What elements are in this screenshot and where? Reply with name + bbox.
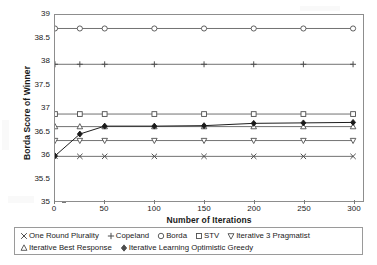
marker-circle-open (102, 26, 107, 31)
marker-diamond-filled (251, 120, 256, 126)
x-tick-mark (104, 200, 105, 204)
plot-canvas (55, 15, 363, 201)
marker-diamond-filled (121, 245, 126, 251)
marker-circle-open (201, 26, 206, 31)
marker-plus (201, 61, 207, 67)
marker-plus (251, 61, 257, 67)
y-tick-label: 37.5 (16, 81, 50, 89)
marker-triangle-up-open (21, 245, 27, 250)
series-0 (55, 154, 356, 159)
marker-square-open (55, 112, 57, 117)
marker-square-open (251, 112, 256, 117)
y-axis-tick-labels: 3535.53636.53737.53838.539 (12, 14, 50, 202)
y-tick-mark (62, 202, 66, 203)
legend-row: Iterative Best ResponseIterative Learnin… (19, 242, 358, 254)
legend-item-label: Iterative Learning Optimistic Greedy (129, 242, 253, 254)
legend-triangle-down-open-icon (226, 230, 236, 242)
legend-item-label: Borda (166, 230, 187, 242)
chart-figure: Borda Score of Winner 3535.53636.53737.5… (0, 0, 377, 265)
legend-item-label: Iterative 3 Pragmatist (236, 230, 310, 242)
marker-plus (77, 61, 83, 67)
marker-plus (350, 61, 356, 67)
y-tick-label: 39 (16, 10, 50, 18)
legend-item[interactable]: Borda (156, 230, 187, 242)
y-tick-label: 38.5 (16, 34, 50, 42)
marker-plus (108, 233, 114, 239)
marker-circle-open (55, 26, 58, 31)
scan-artifact (2, 120, 9, 150)
y-tick-label: 35.5 (16, 175, 50, 183)
y-tick-label: 36 (16, 151, 50, 159)
y-tick-label: 37 (16, 104, 50, 112)
marker-circle-open (152, 26, 157, 31)
y-tick-label: 38 (16, 57, 50, 65)
x-tick-mark (254, 200, 255, 204)
x-tick-label: 100 (139, 204, 169, 213)
legend-item[interactable]: Iterative Learning Optimistic Greedy (119, 242, 253, 254)
series-3 (55, 112, 355, 117)
legend-item-label: Iterative Best Response (29, 242, 112, 254)
legend-x-cross-icon (19, 230, 29, 242)
marker-diamond-filled (301, 120, 306, 126)
marker-square-open (102, 112, 107, 117)
x-tick-label: 250 (289, 204, 319, 213)
marker-square-open (301, 112, 306, 117)
legend-item[interactable]: Copeland (106, 230, 149, 242)
marker-circle-open (77, 26, 82, 31)
x-tick-mark (204, 200, 205, 204)
marker-circle-open (251, 26, 256, 31)
x-axis-title: Number of Iterations (54, 215, 364, 225)
series-1 (55, 61, 356, 67)
marker-square-open (152, 112, 157, 117)
legend-item-label: One Round Plurality (29, 230, 99, 242)
marker-square-open (196, 233, 201, 238)
marker-x-cross (21, 233, 27, 239)
x-tick-mark (354, 200, 355, 204)
marker-circle-open (301, 26, 306, 31)
marker-triangle-down-open (228, 234, 234, 239)
marker-plus (300, 61, 306, 67)
y-tick-label: 36.5 (16, 128, 50, 136)
x-tick-mark (54, 200, 55, 204)
legend-item[interactable]: STV (194, 230, 219, 242)
legend-item[interactable]: One Round Plurality (19, 230, 99, 242)
marker-diamond-filled (351, 119, 356, 125)
x-tick-label: 200 (239, 204, 269, 213)
x-tick-label: 300 (339, 204, 369, 213)
marker-plus (102, 61, 108, 67)
marker-square-open (77, 112, 82, 117)
marker-square-open (202, 112, 207, 117)
legend-row: One Round PluralityCopelandBordaSTVItera… (19, 230, 358, 242)
x-tick-label: 50 (89, 204, 119, 213)
legend-circle-open-icon (156, 230, 166, 242)
marker-circle-open (158, 233, 163, 238)
chart-legend: One Round PluralityCopelandBordaSTVItera… (14, 227, 363, 255)
plot-area (54, 14, 364, 202)
series-4 (55, 138, 356, 143)
x-tick-label: 0 (39, 204, 69, 213)
x-tick-mark (304, 200, 305, 204)
series-2 (55, 26, 356, 31)
legend-triangle-up-open-icon (19, 242, 29, 254)
legend-item[interactable]: Iterative Best Response (19, 242, 112, 254)
legend-item-label: Copeland (116, 230, 149, 242)
legend-item-label: STV (204, 230, 219, 242)
legend-item[interactable]: Iterative 3 Pragmatist (226, 230, 310, 242)
x-tick-mark (154, 200, 155, 204)
marker-plus (55, 61, 58, 67)
legend-plus-icon (106, 230, 116, 242)
marker-circle-open (350, 26, 355, 31)
legend-square-open-icon (194, 230, 204, 242)
legend-diamond-filled-icon (119, 242, 129, 254)
marker-square-open (351, 112, 356, 117)
marker-plus (151, 61, 157, 67)
scan-artifact (300, 6, 340, 11)
x-tick-label: 150 (189, 204, 219, 213)
